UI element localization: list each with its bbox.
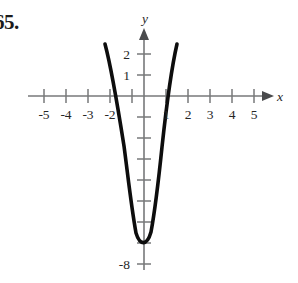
y-axis-label: y [140,11,148,26]
figure-container: 65. [0,0,298,283]
x-axis-label: x [276,89,283,104]
y-axis-arrowhead [139,28,149,40]
x-tick-label-2: 2 [185,107,192,122]
parabola-curve [105,44,177,243]
x-tick-label-neg4: -4 [60,107,71,122]
x-tick-label-neg2: -2 [104,107,115,122]
x-axis-arrowhead [262,91,274,101]
x-tick-label-4: 4 [229,107,236,122]
x-tick-label-3: 3 [207,107,214,122]
x-tick-label-neg3: -3 [82,107,93,122]
y-tick-label-neg8: -8 [119,257,130,272]
x-tick-label-5: 5 [251,107,258,122]
x-tick-label-neg5: -5 [38,107,49,122]
coordinate-graph: -5 -4 -3 -2 1 2 3 4 5 2 1 -8 x y [0,0,298,283]
x-tick-label-1: 1 [163,107,170,122]
y-tick-label-1: 1 [123,68,130,83]
y-tick-label-2: 2 [123,47,130,62]
